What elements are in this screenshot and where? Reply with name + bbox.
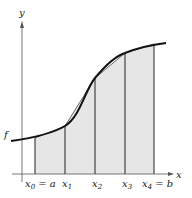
trapezoid-diagram: y x f x0 = a x1 x2 x3 x4 = b — [0, 0, 192, 198]
svg-text:x1: x1 — [62, 178, 72, 191]
svg-text:x4 = b: x4 = b — [142, 178, 173, 191]
partition-label-2: x2 — [92, 178, 103, 191]
svg-text:x3: x3 — [122, 178, 133, 191]
svg-text:x0 = a: x0 = a — [25, 178, 56, 191]
y-axis-arrow-icon — [20, 21, 24, 28]
x-axis-label: x — [176, 169, 182, 180]
y-axis-label: y — [18, 7, 25, 18]
partition-label-1: x1 — [62, 178, 72, 191]
svg-text:x2: x2 — [92, 178, 103, 191]
partition-label-0: x0 = a — [25, 178, 56, 191]
x-axis-arrow-icon — [168, 172, 174, 176]
function-label: f — [3, 129, 10, 140]
partition-label-4: x4 = b — [142, 178, 173, 191]
partition-label-3: x3 — [122, 178, 133, 191]
